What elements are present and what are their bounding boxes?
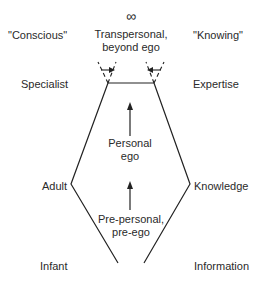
transpersonal-line-1: Transpersonal, xyxy=(90,28,172,41)
right-converge-arrow xyxy=(147,67,161,73)
upward-arrow-personal xyxy=(127,102,133,136)
left-level-adult: Adult xyxy=(42,180,67,193)
right-level-knowledge: Knowledge xyxy=(194,180,248,193)
left-level-specialist: Specialist xyxy=(21,78,68,91)
right-level-expertise: Expertise xyxy=(193,78,239,91)
upward-arrow-prepersonal xyxy=(127,181,133,210)
prepersonal-label: Pre-personal, pre-ego xyxy=(90,213,172,239)
infinity-symbol: ∞ xyxy=(120,10,142,23)
left-level-infant: Infant xyxy=(40,260,68,273)
personal-line-2: ego xyxy=(100,150,160,163)
right-level-information: Information xyxy=(194,260,249,273)
prepersonal-line-2: pre-ego xyxy=(90,226,172,239)
left-column-header: "Conscious" xyxy=(8,29,67,42)
personal-line-1: Personal xyxy=(100,137,160,150)
left-converge-arrow xyxy=(101,67,115,73)
transpersonal-label: Transpersonal, beyond ego xyxy=(90,28,172,54)
right-column-header: "Knowing" xyxy=(193,29,243,42)
transpersonal-line-2: beyond ego xyxy=(90,41,172,54)
prepersonal-line-1: Pre-personal, xyxy=(90,213,172,226)
personal-ego-label: Personal ego xyxy=(100,137,160,163)
